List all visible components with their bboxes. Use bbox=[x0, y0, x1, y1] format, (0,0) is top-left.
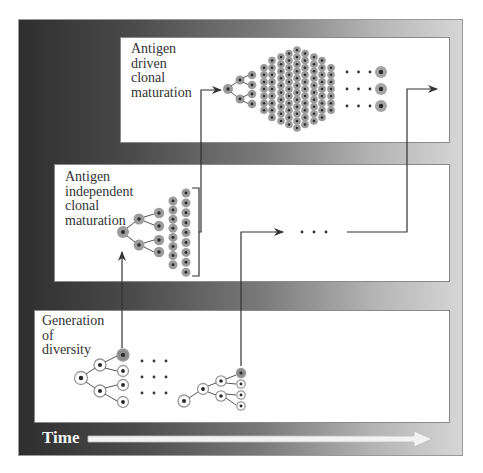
time-arrow-icon bbox=[88, 431, 432, 447]
diagram-overlay bbox=[0, 0, 483, 473]
cell-groups bbox=[75, 46, 388, 410]
